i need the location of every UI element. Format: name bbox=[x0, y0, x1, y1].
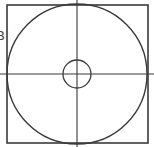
geometry-diagram bbox=[0, 0, 154, 147]
